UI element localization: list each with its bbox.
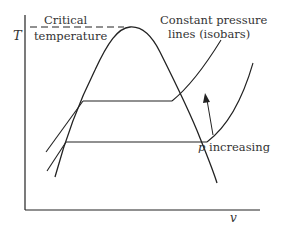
x-axis-label: v — [230, 211, 237, 225]
axes — [25, 15, 260, 210]
arrow-shaft — [207, 100, 213, 135]
pressure-arrow — [203, 93, 213, 135]
isobar-upper — [46, 40, 221, 152]
p-increasing-text: increasing — [205, 140, 270, 154]
arrow-head-icon — [203, 93, 210, 103]
critical-label-line1: Critical — [44, 13, 88, 27]
isobar-label-line2: lines (isobars) — [168, 27, 250, 41]
saturation-dome — [55, 27, 217, 183]
isobar-lower — [47, 63, 253, 171]
p-increasing-label: p increasing — [198, 140, 271, 154]
isobar-lower-vapor — [207, 63, 253, 142]
y-axis-label: T — [13, 28, 23, 43]
critical-label-line2: temperature — [34, 29, 107, 43]
isobar-label-line1: Constant pressure — [160, 13, 268, 27]
tv-diagram: T v Critical temperature Constant pressu… — [0, 0, 282, 227]
